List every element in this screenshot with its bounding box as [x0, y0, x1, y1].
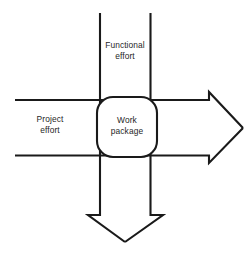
project-effort-label: Project effort [26, 114, 74, 135]
work-package-label: Work package [100, 115, 154, 136]
functional-effort-label: Functional effort [101, 40, 149, 61]
work-package-diagram: Functional effort Project effort Work pa… [0, 0, 247, 253]
